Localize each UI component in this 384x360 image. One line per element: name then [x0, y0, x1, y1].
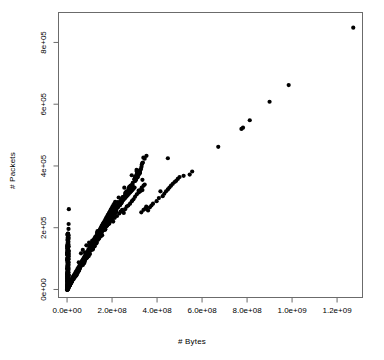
data-point [122, 186, 126, 190]
data-point [66, 237, 70, 241]
x-tick-label-6: 1.2e+09 [323, 306, 353, 315]
x-tick-label-0: 0.0e+00 [52, 306, 82, 315]
data-point [95, 231, 99, 235]
data-point-layer [65, 26, 355, 292]
data-point [68, 283, 72, 287]
x-tick-label-2: 4.0e+08 [142, 306, 172, 315]
x-tick-label-3: 6.0e+08 [187, 306, 217, 315]
data-point [134, 168, 138, 172]
data-point [143, 182, 147, 186]
data-point [77, 267, 81, 271]
data-point [141, 160, 145, 164]
data-point [158, 189, 162, 193]
data-point [101, 222, 105, 226]
y-tick-label-2: 4e+05 [40, 154, 49, 177]
data-point [77, 260, 81, 264]
data-point [130, 173, 134, 177]
data-point [127, 187, 131, 191]
data-point [65, 272, 69, 276]
plot-frame [59, 13, 363, 298]
data-point [66, 252, 70, 256]
data-point [141, 156, 145, 160]
x-axis-title: # Bytes [0, 337, 384, 346]
x-tick-label-5: 1.0e+09 [277, 306, 307, 315]
y-tick-label-4: 8e+05 [40, 31, 49, 54]
data-point [131, 181, 135, 185]
data-point [66, 267, 70, 271]
data-point [106, 212, 110, 216]
data-point [119, 200, 123, 204]
tick-labels: 0.0e+002.0e+084.0e+086.0e+088.0e+081.0e+… [40, 31, 353, 315]
data-point [113, 205, 117, 209]
data-point [241, 126, 245, 130]
data-point [96, 235, 100, 239]
data-point [66, 244, 70, 248]
tick-marks [54, 42, 338, 302]
data-point [83, 250, 87, 254]
x-tick-label-1: 2.0e+08 [97, 306, 127, 315]
data-point [88, 247, 92, 251]
data-point [112, 210, 116, 214]
data-point [144, 206, 148, 210]
data-point [88, 243, 92, 247]
data-point [157, 196, 161, 200]
data-point [122, 211, 126, 215]
data-point [116, 200, 120, 204]
data-point [190, 169, 194, 173]
data-point [67, 207, 71, 211]
data-point [267, 100, 271, 104]
data-point [72, 277, 76, 281]
data-point [248, 118, 252, 122]
y-axis-title: # Packets [8, 131, 17, 211]
data-point [66, 260, 70, 264]
data-point [123, 191, 127, 195]
y-tick-label-1: 2e+05 [40, 216, 49, 239]
data-point [216, 145, 220, 149]
data-point [123, 196, 127, 200]
y-tick-label-0: 0e+00 [40, 278, 49, 301]
data-point [66, 232, 70, 236]
data-point [67, 222, 71, 226]
data-point [90, 239, 94, 243]
data-point [66, 227, 70, 231]
data-point [100, 230, 104, 234]
data-point [177, 175, 181, 179]
x-tick-label-4: 8.0e+08 [232, 306, 262, 315]
plot-canvas: 0.0e+002.0e+084.0e+086.0e+088.0e+081.0e+… [0, 0, 384, 360]
data-point [140, 178, 144, 182]
data-point [151, 202, 155, 206]
data-point [351, 26, 355, 30]
scatter-plot-figure: 0.0e+002.0e+084.0e+086.0e+088.0e+081.0e+… [0, 0, 384, 360]
y-tick-label-3: 6e+05 [40, 92, 49, 115]
data-point [166, 156, 170, 160]
data-point [117, 195, 121, 199]
data-point [102, 226, 106, 230]
data-point [83, 259, 87, 263]
data-point [287, 83, 291, 87]
data-point [140, 188, 144, 192]
data-point [182, 174, 186, 178]
data-point [74, 273, 78, 277]
